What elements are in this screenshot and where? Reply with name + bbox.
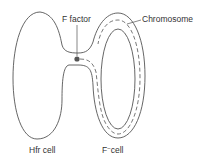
f-factor-label: F factor bbox=[62, 14, 91, 24]
hfr-cell-label: Hfr cell bbox=[29, 145, 56, 155]
f-minus-suffix: cell bbox=[111, 145, 124, 155]
f-minus-cell-label: F−cell bbox=[102, 145, 124, 155]
f-minus-cell-inner-outline bbox=[101, 29, 135, 129]
chromosome-dashed-line bbox=[80, 20, 140, 134]
hfr-cell-outline bbox=[13, 12, 78, 139]
f-factor-dot bbox=[74, 56, 79, 61]
conjugation-diagram: F factor Chromosome Hfr cell F−cell bbox=[0, 0, 204, 159]
chromosome-label: Chromosome bbox=[142, 14, 193, 24]
